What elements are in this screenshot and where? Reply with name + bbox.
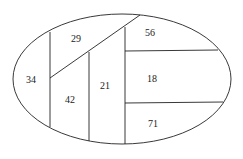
region-label: 21	[100, 80, 110, 91]
region-label: 71	[148, 118, 158, 129]
region-label: 29	[71, 33, 81, 44]
ellipse-diagram: 29 34 42 21 56 18 71	[0, 0, 243, 159]
divider-line	[125, 50, 218, 51]
diagram-canvas: 29 34 42 21 56 18 71	[0, 0, 243, 159]
region-label: 42	[65, 94, 75, 105]
divider-line	[125, 102, 223, 103]
region-label: 56	[145, 27, 155, 38]
outer-ellipse	[13, 14, 231, 144]
region-label: 34	[26, 74, 36, 85]
region-label: 18	[147, 73, 157, 84]
